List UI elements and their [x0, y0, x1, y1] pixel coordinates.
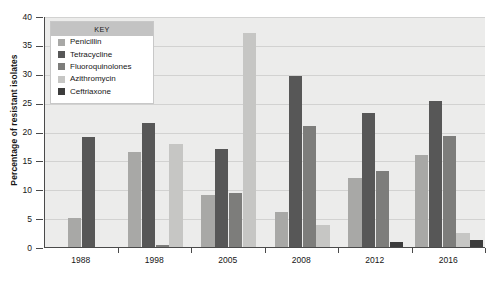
legend-title: KEY — [51, 22, 153, 36]
y-axis-tick — [36, 161, 43, 162]
x-axis-tick — [191, 248, 192, 253]
bar — [303, 126, 316, 247]
bar — [229, 193, 242, 247]
x-axis-tick — [265, 248, 266, 253]
y-axis-tick-label: 40 — [0, 13, 32, 22]
chart-legend: KEY PenicillinTetracyclineFluoroquinolon… — [50, 21, 154, 104]
gridline — [45, 17, 485, 18]
x-axis-tick — [338, 248, 339, 253]
x-axis-tick-label: 1988 — [51, 255, 111, 265]
legend-item-penicillin: Penicillin — [51, 36, 153, 48]
x-axis-tick-label: 2005 — [198, 255, 258, 265]
bar — [68, 218, 81, 247]
legend-item-label: Tetracycline — [70, 51, 112, 59]
y-axis-tick-label: 30 — [0, 70, 32, 79]
x-axis-tick-label: 2008 — [271, 255, 331, 265]
legend-item-ceftriaxone: Ceftriaxone — [51, 86, 153, 98]
bar — [289, 76, 302, 247]
y-axis-tick — [36, 133, 43, 134]
x-axis-tick — [412, 248, 413, 253]
legend-swatch-icon — [58, 63, 65, 70]
x-axis-tick-label: 2012 — [345, 255, 405, 265]
bar — [443, 136, 456, 247]
y-axis-tick — [36, 104, 43, 105]
legend-swatch-icon — [58, 51, 65, 58]
bar — [362, 113, 375, 247]
y-axis-tick — [36, 219, 43, 220]
y-axis-tick — [36, 248, 43, 249]
y-axis-tick — [36, 190, 43, 191]
bar — [156, 245, 169, 247]
bar — [169, 144, 182, 247]
bar — [390, 242, 403, 247]
bar — [275, 212, 288, 247]
y-axis-tick-label: 10 — [0, 186, 32, 195]
legend-swatch-icon — [58, 39, 65, 46]
bar — [348, 178, 361, 247]
bar — [215, 149, 228, 247]
legend-entries: PenicillinTetracyclineFluoroquinolonesAz… — [51, 36, 153, 98]
y-axis-tick-label: 0 — [0, 244, 32, 253]
bar — [316, 225, 329, 247]
x-axis-tick — [485, 248, 486, 253]
bar — [429, 101, 442, 247]
y-axis-tick-label: 20 — [0, 128, 32, 137]
x-axis-tick-label: 1998 — [124, 255, 184, 265]
y-axis-tick — [36, 17, 43, 18]
x-axis-tick-label: 2016 — [418, 255, 478, 265]
resistance-bar-chart: Percentage of resistant isolates 0510152… — [0, 0, 491, 281]
x-axis-tick — [118, 248, 119, 253]
bar — [128, 152, 141, 247]
bar — [243, 33, 256, 247]
y-axis-tick-label: 5 — [0, 215, 32, 224]
legend-swatch-icon — [58, 76, 65, 83]
bar — [470, 240, 483, 248]
bar — [415, 155, 428, 247]
legend-item-tetracycline: Tetracycline — [51, 48, 153, 60]
legend-item-label: Azithromycin — [70, 75, 116, 83]
y-axis-tick-label: 25 — [0, 99, 32, 108]
bar — [82, 137, 95, 247]
legend-item-label: Fluoroquinolones — [70, 63, 131, 71]
legend-swatch-icon — [58, 88, 65, 95]
y-axis-tick — [36, 75, 43, 76]
legend-item-azithromycin: Azithromycin — [51, 73, 153, 85]
gridline — [45, 133, 485, 134]
legend-item-label: Penicillin — [70, 38, 102, 46]
bar — [201, 195, 214, 247]
bar — [142, 123, 155, 247]
y-axis-tick-label: 15 — [0, 157, 32, 166]
y-axis-tick-label: 35 — [0, 41, 32, 50]
legend-item-label: Ceftriaxone — [70, 88, 111, 96]
bar — [376, 171, 389, 247]
y-axis-tick — [36, 46, 43, 47]
legend-item-fluoroquinolones: Fluoroquinolones — [51, 61, 153, 73]
bar — [456, 233, 469, 247]
